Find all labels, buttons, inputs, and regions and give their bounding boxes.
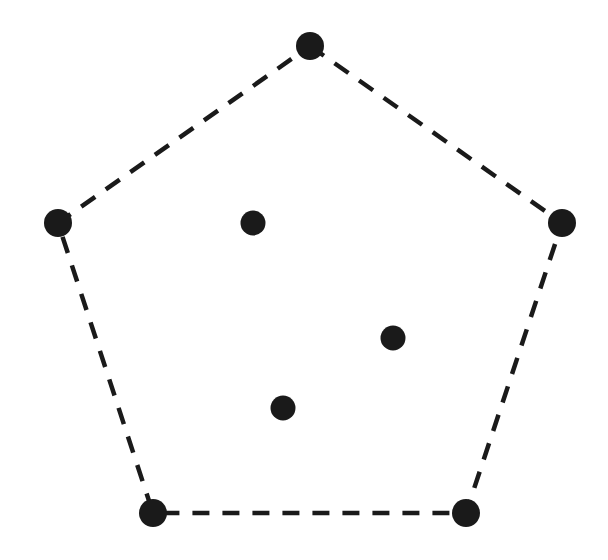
point-interior-upper-left[interactable] [241, 211, 266, 236]
convex-hull-figure [0, 0, 608, 560]
point-bottom-right-vertex[interactable] [452, 499, 480, 527]
point-interior-lower-center[interactable] [271, 396, 296, 421]
figure-background [0, 0, 608, 560]
point-bottom-left-vertex[interactable] [139, 499, 167, 527]
point-right-vertex[interactable] [548, 209, 576, 237]
point-left-vertex[interactable] [44, 209, 72, 237]
point-interior-middle-right[interactable] [381, 326, 406, 351]
point-top-vertex[interactable] [296, 32, 324, 60]
